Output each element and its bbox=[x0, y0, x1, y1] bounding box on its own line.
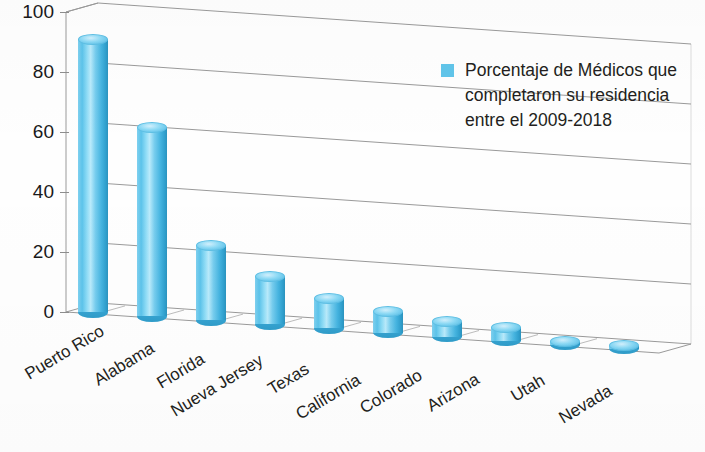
bar-body bbox=[137, 127, 167, 316]
bar-texas bbox=[314, 293, 344, 334]
legend-label-line-1: Porcentaje de Médicos que bbox=[465, 58, 705, 83]
bar-top-ellipse bbox=[255, 271, 285, 282]
bar-body bbox=[255, 276, 285, 324]
bar-puerto-rico bbox=[78, 34, 108, 318]
bar-florida bbox=[196, 240, 226, 326]
bar-body bbox=[196, 245, 226, 320]
bar-top-ellipse bbox=[314, 293, 344, 304]
legend-color-swatch bbox=[441, 64, 454, 77]
bar-nevada bbox=[609, 340, 639, 354]
bar-body bbox=[78, 39, 108, 312]
bar-colorado bbox=[432, 316, 462, 342]
legend-label-line-3: entre el 2009-2018 bbox=[465, 108, 705, 133]
legend-label-line-2: completaron su residencia bbox=[465, 83, 705, 108]
bar-utah bbox=[550, 336, 580, 350]
legend-label: Porcentaje de Médicos que completaron su… bbox=[465, 58, 705, 133]
bar-arizona bbox=[491, 322, 521, 347]
bar-alabama bbox=[137, 122, 167, 322]
bar-top-ellipse bbox=[196, 240, 226, 251]
bar-california bbox=[373, 306, 403, 338]
bar-top-ellipse bbox=[373, 306, 403, 317]
bar-nueva-jersey bbox=[255, 271, 285, 330]
bar-top-ellipse bbox=[491, 322, 521, 333]
chart-figure: 100 80 60 40 20 0 Puerto Rico Alabama Fl… bbox=[0, 0, 705, 452]
bar-top-ellipse bbox=[137, 122, 167, 133]
bar-top-ellipse bbox=[78, 34, 108, 45]
